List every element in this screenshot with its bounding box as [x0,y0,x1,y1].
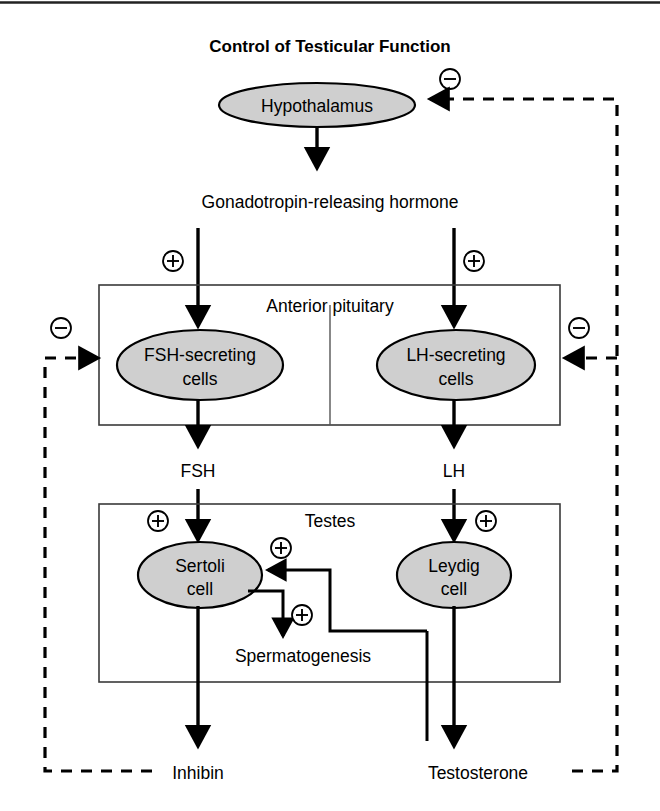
spermatogenesis-label: Spermatogenesis [235,646,371,666]
diagram-root: Control of Testicular Function Hypothala… [0,0,660,811]
sertoli-cell-label-1: Sertoli [175,556,225,576]
gnrh-label: Gonadotropin-releasing hormone [202,192,459,212]
lh-secreting-cells-label-2: cells [438,369,473,389]
minus-sign-testosterone-lh [569,318,589,338]
hypothalamus-label: Hypothalamus [261,96,373,116]
plus-sign-gnrh-lh [464,251,484,271]
fsh-secreting-cells-label-1: FSH-secreting [144,345,256,365]
sertoli-cell-label-2: cell [187,579,213,599]
plus-sign-lh-leydig [476,511,496,531]
lh-secreting-cells-label-1: LH-secreting [406,345,505,365]
fsh-label: FSH [181,461,216,481]
control-of-testicular-function-diagram: Control of Testicular Function Hypothala… [0,0,660,811]
inhibin-label: Inhibin [172,763,224,783]
fsh-secreting-cells-label-2: cells [182,369,217,389]
lh-secreting-cells-node[interactable] [377,330,535,400]
plus-sign-gnrh-fsh [163,251,183,271]
testosterone-label: Testosterone [428,763,528,783]
fsh-secreting-cells-node[interactable] [117,330,283,400]
anterior-pituitary-label: Anterior pituitary [266,296,394,316]
plus-sign-testosterone-sertoli [271,538,291,558]
plus-sign-fsh-sertoli [148,511,168,531]
leydig-cell-label-1: Leydig [428,556,480,576]
leydig-cell-label-2: cell [441,579,467,599]
plus-sign-sertoli-spermatogenesis [292,605,312,625]
path-sertoli-to-spermatogenesis [248,591,283,636]
testes-label: Testes [305,511,356,531]
minus-sign-inhibin-fsh [51,318,71,338]
page-title: Control of Testicular Function [209,37,450,56]
minus-sign-hypothalamus [440,69,460,89]
lh-label: LH [443,461,465,481]
